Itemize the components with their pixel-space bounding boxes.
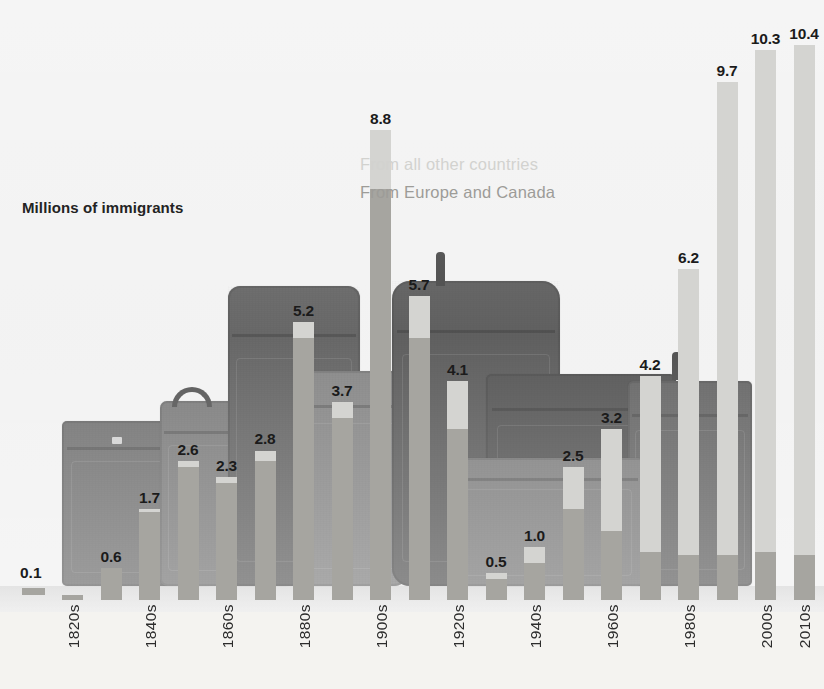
bars-layer: 0.61.72.62.32.85.23.78.85.74.10.51.02.53…	[0, 0, 824, 612]
axis-title: Millions of immigrants	[22, 199, 183, 216]
x-tick-2000s: 2000s	[758, 604, 776, 648]
first-bar-swatch	[22, 588, 45, 595]
bar-segment-europe-canada	[486, 579, 507, 600]
bar-value-label-1840s: 1.7	[139, 489, 160, 507]
bar-segment-europe-canada	[678, 555, 699, 600]
bar-1820s[interactable]	[62, 595, 83, 600]
bar-1920s[interactable]: 4.1	[447, 381, 468, 600]
bar-segment-europe-canada	[62, 595, 83, 600]
bar-1870s[interactable]: 2.8	[255, 450, 276, 600]
bar-1880s[interactable]: 5.2	[293, 322, 314, 600]
bar-segment-europe-canada	[293, 338, 314, 600]
x-axis: 1820s1840s1860s1880s1900s1920s1940s1960s…	[0, 604, 824, 660]
x-tick-1820s: 1820s	[65, 604, 83, 648]
bar-segment-other-countries	[755, 50, 776, 552]
bar-value-label-1850s: 2.6	[178, 441, 199, 459]
first-bar-value-label: 0.1	[20, 564, 42, 582]
x-tick-1860s: 1860s	[219, 604, 237, 648]
bar-segment-europe-canada	[601, 531, 622, 600]
bar-segment-other-countries	[601, 429, 622, 530]
bar-value-label-1960s: 3.2	[601, 409, 622, 427]
bar-1910s[interactable]: 5.7	[409, 296, 430, 600]
bar-value-label-1890s: 3.7	[332, 382, 353, 400]
bar-segment-europe-canada	[794, 555, 815, 600]
bar-segment-europe-canada	[370, 189, 391, 600]
bar-segment-europe-canada	[332, 418, 353, 600]
bar-1930s[interactable]: 0.5	[486, 573, 507, 600]
bar-segment-other-countries	[332, 402, 353, 418]
bar-1970s[interactable]: 4.2	[640, 376, 661, 600]
bar-value-label-1870s: 2.8	[255, 430, 276, 448]
x-tick-1920s: 1920s	[450, 604, 468, 648]
bar-value-label-1880s: 5.2	[293, 302, 314, 320]
bar-segment-europe-canada	[447, 429, 468, 600]
bar-segment-europe-canada	[216, 483, 237, 600]
bar-segment-europe-canada	[640, 552, 661, 600]
x-tick-2010s: 2010s	[796, 604, 814, 648]
bar-value-label-1980s: 6.2	[678, 249, 699, 267]
bar-segment-other-countries	[409, 296, 430, 339]
bar-value-label-2010s: 10.4	[789, 25, 818, 43]
x-tick-1960s: 1960s	[604, 604, 622, 648]
bar-value-label-1920s: 4.1	[447, 361, 468, 379]
x-tick-1940s: 1940s	[527, 604, 545, 648]
bar-value-label-1900s: 8.8	[370, 110, 391, 128]
bar-segment-other-countries	[293, 322, 314, 338]
x-tick-1880s: 1880s	[296, 604, 314, 648]
bar-segment-other-countries	[717, 82, 738, 555]
bar-1990s[interactable]: 9.7	[717, 82, 738, 600]
bar-segment-europe-canada	[409, 338, 430, 600]
bar-segment-europe-canada	[524, 563, 545, 600]
bar-segment-europe-canada	[178, 467, 199, 601]
bar-1960s[interactable]: 3.2	[601, 429, 622, 600]
bar-1950s[interactable]: 2.5	[563, 467, 584, 601]
bar-1940s[interactable]: 1.0	[524, 547, 545, 600]
bar-segment-europe-canada	[755, 552, 776, 600]
bar-segment-other-countries	[563, 467, 584, 510]
bar-1890s[interactable]: 3.7	[332, 402, 353, 600]
bar-1980s[interactable]: 6.2	[678, 269, 699, 600]
legend-item-other-countries: From all other countries	[360, 155, 555, 174]
bar-value-label-1970s: 4.2	[640, 356, 661, 374]
bar-value-label-1930s: 0.5	[486, 553, 507, 571]
bar-segment-other-countries	[640, 376, 661, 552]
bar-value-label-1830s: 0.6	[101, 548, 122, 566]
bar-2000s[interactable]: 10.3	[755, 50, 776, 600]
bar-1850s[interactable]: 2.6	[178, 461, 199, 600]
bar-segment-other-countries	[447, 381, 468, 429]
bar-1840s[interactable]: 1.7	[139, 509, 160, 600]
bar-segment-other-countries	[524, 547, 545, 563]
bar-segment-europe-canada	[717, 555, 738, 600]
x-tick-1980s: 1980s	[681, 604, 699, 648]
bar-2010s[interactable]: 10.4	[794, 45, 815, 600]
x-tick-1900s: 1900s	[373, 604, 391, 648]
chart-figure: 0.61.72.62.32.85.23.78.85.74.10.51.02.53…	[0, 0, 824, 689]
bar-value-label-1990s: 9.7	[717, 62, 738, 80]
x-tick-1840s: 1840s	[142, 604, 160, 648]
bar-value-label-1860s: 2.3	[216, 457, 237, 475]
bar-value-label-2000s: 10.3	[751, 30, 780, 48]
bar-segment-europe-canada	[563, 509, 584, 600]
bar-segment-other-countries	[794, 45, 815, 555]
bar-1830s[interactable]: 0.6	[101, 568, 122, 600]
bar-segment-europe-canada	[101, 568, 122, 600]
bar-value-label-1910s: 5.7	[409, 276, 430, 294]
bar-1860s[interactable]: 2.3	[216, 477, 237, 600]
bar-segment-other-countries	[255, 451, 276, 462]
legend-item-europe-canada: From Europe and Canada	[360, 183, 555, 202]
bar-segment-europe-canada	[255, 461, 276, 600]
bar-value-label-1940s: 1.0	[524, 527, 545, 545]
legend: From all other countries From Europe and…	[360, 155, 555, 211]
bar-segment-europe-canada	[139, 512, 160, 600]
bar-value-label-1950s: 2.5	[563, 447, 584, 465]
bar-segment-other-countries	[678, 269, 699, 555]
